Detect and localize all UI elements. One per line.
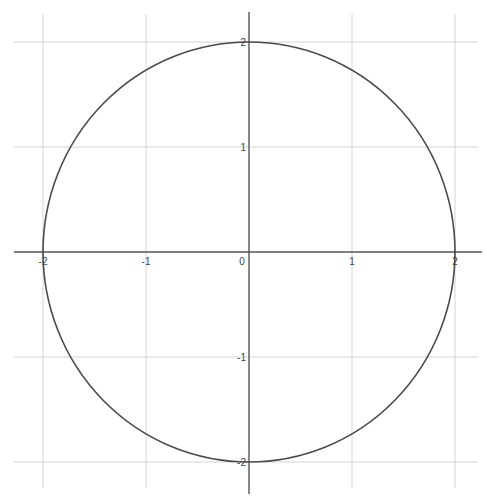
y-tick-label: -1 <box>237 352 246 363</box>
x-tick-label: -1 <box>142 256 151 267</box>
x-tick-label: 0 <box>239 256 245 267</box>
x-tick-label: 2 <box>452 256 458 267</box>
y-tick-label: -2 <box>237 457 246 468</box>
circle-plot: -2-101221-1-2 <box>0 0 487 502</box>
x-tick-label: -2 <box>39 256 48 267</box>
y-tick-label: 1 <box>240 142 246 153</box>
x-tick-label: 1 <box>349 256 355 267</box>
grid-lines <box>14 14 478 488</box>
axes <box>14 12 482 494</box>
y-tick-label: 2 <box>240 37 246 48</box>
graph-canvas: -2-101221-1-2 <box>0 0 487 502</box>
